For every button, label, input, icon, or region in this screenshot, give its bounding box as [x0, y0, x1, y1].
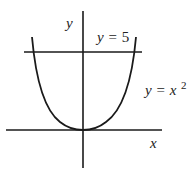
- y-axis-label: y: [64, 15, 73, 31]
- parabola-curve: [32, 37, 136, 130]
- line-label: y = 5: [95, 29, 129, 45]
- parabola-label: y = x 2: [143, 79, 187, 98]
- x-axis-label: x: [149, 135, 157, 151]
- diagram-canvas: y x y = 5 y = x 2: [0, 0, 191, 173]
